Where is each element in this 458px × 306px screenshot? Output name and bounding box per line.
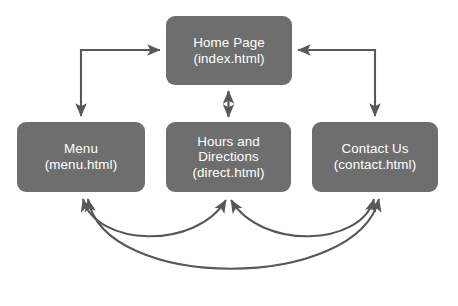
node-menu[interactable]: Menu (menu.html) bbox=[17, 122, 145, 192]
node-menu-file: (menu.html) bbox=[45, 157, 118, 173]
node-menu-title: Menu bbox=[64, 141, 98, 157]
connector-home-contact bbox=[298, 50, 375, 116]
node-home-page-file: (index.html) bbox=[193, 51, 264, 67]
connector-hours-contact bbox=[231, 199, 374, 236]
node-hours-and-directions[interactable]: Hours and Directions (direct.html) bbox=[166, 122, 291, 192]
node-contact-us-file: (contact.html) bbox=[334, 157, 417, 173]
node-contact-us-title: Contact Us bbox=[341, 141, 408, 157]
node-hours-and-directions-title-line1: Hours and bbox=[197, 134, 260, 150]
node-hours-and-directions-file: (direct.html) bbox=[193, 165, 265, 181]
connector-home-menu bbox=[81, 50, 160, 116]
node-home-page-title: Home Page bbox=[193, 35, 265, 51]
node-home-page[interactable]: Home Page (index.html) bbox=[166, 16, 292, 85]
node-hours-and-directions-title-line2: Directions bbox=[198, 149, 259, 165]
site-map-diagram: Home Page (index.html) Menu (menu.html) … bbox=[0, 0, 458, 306]
node-contact-us[interactable]: Contact Us (contact.html) bbox=[312, 122, 438, 192]
